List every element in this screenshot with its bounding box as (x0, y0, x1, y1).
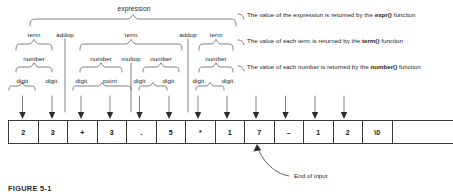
annotation-expr-prefix: The value of the expression is returned … (247, 11, 375, 18)
tree-node-term-3: term (201, 31, 231, 38)
annotation-term-function: term() (362, 37, 380, 44)
annotation-number-prefix: The value of each number is returned by … (247, 63, 370, 70)
tree-node-digit-6: digit (186, 77, 211, 84)
tape-cell: + (67, 120, 97, 144)
tape-cell: 5 (156, 120, 186, 144)
tape-cell: 2 (333, 120, 363, 144)
tree-node-point: point (97, 77, 123, 84)
tape-cell-terminator: \0 (362, 120, 392, 144)
tape-cell: 3 (38, 120, 68, 144)
end-of-input-leader (259, 151, 289, 176)
tree-node-digit-7: digit (215, 77, 240, 84)
tape-cell-gap: ····· (392, 120, 453, 144)
input-buffer-tape: 2 3 + 3 . 5 * 1 7 – 1 2 \0 ····· (8, 120, 453, 144)
tree-node-digit-4: digit (127, 77, 152, 84)
tape-cell: * (185, 120, 215, 144)
tree-node-number-3: number (144, 55, 178, 62)
tree-node-term-1: term (19, 31, 49, 38)
tree-node-number-4: number (199, 55, 233, 62)
tape-cell: 1 (215, 120, 245, 144)
annotation-term-prefix: The value of each term is returned by th… (247, 37, 362, 44)
tree-node-expression: expression (109, 5, 159, 12)
tape-cell: . (126, 120, 156, 144)
tree-node-digit-3: digit (69, 77, 94, 84)
annotation-term-suffix: function (379, 37, 403, 44)
annotation-number-suffix: function (397, 63, 421, 70)
tape-arrowheads (19, 112, 347, 119)
annotation-expr-function: expr() (375, 11, 392, 18)
tree-node-digit-5: digit (156, 77, 181, 84)
tree-node-multop: multop (114, 55, 148, 62)
end-of-input-arrowhead (253, 144, 261, 151)
tape-cell: 2 (8, 120, 38, 144)
annotation-term: The value of each term is returned by th… (247, 37, 403, 45)
tree-node-addop-2: addop (171, 31, 205, 38)
figure-caption: FIGURE 5-1 (8, 184, 52, 193)
tree-node-number-1: number (17, 55, 51, 62)
tree-node-number-2: number (84, 55, 118, 62)
tape-cell: 1 (303, 120, 333, 144)
tape-cell: 3 (97, 120, 127, 144)
tree-node-digit-1: digit (10, 77, 35, 84)
annotation-expr-suffix: function (392, 11, 416, 18)
annotation-expr: The value of the expression is returned … (247, 11, 415, 19)
tree-node-digit-2: digit (39, 77, 64, 84)
tree-node-addop-1: addop (48, 31, 82, 38)
connector-lines (0, 0, 453, 194)
annotation-brace-tails (238, 14, 244, 71)
tape-cell: – (274, 120, 304, 144)
tree-node-term-2: term (116, 31, 146, 38)
annotation-number-function: number() (370, 63, 397, 70)
end-of-input-label: End of input (294, 172, 328, 179)
figure-canvas: expression term addop term addop term nu… (0, 0, 453, 194)
annotation-number: The value of each number is returned by … (247, 63, 421, 71)
tape-cell: 7 (244, 120, 274, 144)
